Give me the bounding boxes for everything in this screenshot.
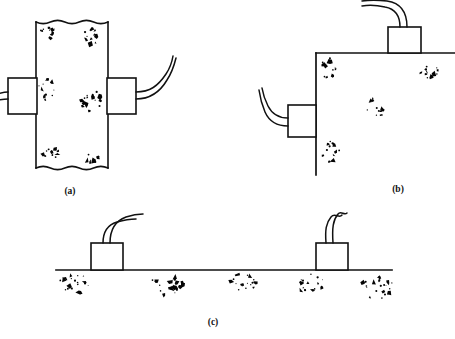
aggregate-particle [75, 290, 82, 294]
aggregate-cluster [40, 27, 55, 41]
aggregate-particle [338, 150, 340, 152]
aggregate-particle [57, 150, 59, 153]
aggregate-particle [235, 283, 236, 284]
cable-strand [0, 99, 8, 101]
aggregate-particle [329, 57, 331, 59]
transducer-right[interactable] [107, 56, 176, 114]
aggregate-particle [424, 68, 427, 71]
panel-label-c: (c) [208, 317, 219, 328]
aggregate-particle [383, 284, 385, 286]
aggregate-particle [67, 288, 68, 289]
aggregate-particle [43, 94, 46, 98]
aggregate-particle [94, 161, 96, 163]
aggregate-particle [162, 293, 165, 297]
aggregate-particle [54, 29, 55, 30]
aggregate-particle [95, 42, 97, 44]
aggregate-particle [436, 67, 437, 68]
aggregate-particle [43, 28, 45, 30]
aggregate-particle [376, 114, 377, 115]
aggregate-particle [317, 276, 319, 278]
aggregate-particle [419, 71, 422, 74]
transducer-top[interactable] [362, 0, 421, 53]
aggregate-cluster [322, 141, 340, 163]
aggregate-particle [95, 100, 96, 101]
aggregate-particle [53, 90, 54, 91]
aggregate-particle [327, 59, 333, 64]
cable-top [362, 0, 407, 27]
aggregate-particle [364, 282, 365, 283]
aggregate-particle [324, 76, 326, 78]
transducer-body[interactable] [316, 243, 348, 270]
aggregate-particle [53, 147, 57, 151]
figure-root: (a)(b)(c) [0, 0, 455, 339]
aggregate-particle [238, 289, 240, 291]
aggregate-particle [366, 285, 368, 287]
aggregate-particle [94, 34, 96, 36]
aggregate-particle [88, 41, 93, 47]
aggregate-particle [302, 287, 304, 289]
aggregate-particle [384, 293, 386, 295]
aggregate-particle [49, 29, 50, 30]
aggregate-particle [253, 281, 257, 284]
wall-top-break-edge [36, 20, 108, 23]
aggregate-particle [40, 29, 42, 31]
aggregate-particle [247, 275, 248, 276]
transducer-body[interactable] [107, 78, 136, 114]
cable-strand [333, 213, 347, 243]
panel-label-a: (a) [64, 186, 75, 197]
aggregate-particle [89, 161, 91, 164]
transducer-body[interactable] [91, 243, 123, 270]
transducer-side[interactable] [259, 88, 316, 137]
transducer-right[interactable] [316, 213, 348, 270]
cable-right [326, 213, 347, 243]
aggregate-particle [70, 273, 73, 277]
aggregate-particle [378, 110, 380, 112]
aggregate-particle [253, 279, 254, 280]
aggregate-particle [329, 141, 331, 143]
aggregate-particle [159, 285, 160, 286]
transducer-body[interactable] [288, 105, 316, 137]
aggregate-particle [381, 290, 385, 294]
aggregate-particle [154, 279, 158, 283]
cable-left [0, 92, 8, 101]
aggregate-particle [50, 150, 54, 154]
aggregate-cluster [299, 273, 323, 292]
aggregate-particle [86, 95, 87, 96]
transducer-body[interactable] [8, 78, 37, 114]
aggregate-particle [50, 27, 55, 32]
aggregate-cluster [419, 66, 438, 80]
aggregate-particle [77, 283, 79, 285]
aggregate-particle [77, 282, 79, 284]
aggregate-particle [322, 154, 325, 157]
aggregate-particle [82, 281, 87, 283]
cable-strand [136, 58, 176, 99]
aggregate-particle [333, 154, 336, 157]
panel-a [0, 20, 176, 169]
aggregate-particle [174, 292, 175, 293]
aggregate-particle [41, 86, 44, 91]
aggregate-particle [84, 97, 86, 99]
aggregate-particle [304, 289, 306, 291]
aggregate-particle [366, 287, 367, 288]
aggregate-particle [432, 71, 436, 77]
aggregate-particle [331, 142, 333, 144]
aggregate-cluster [59, 273, 88, 294]
aggregate-particle [98, 105, 100, 107]
transducer-left[interactable] [91, 214, 143, 270]
aggregate-particle [332, 69, 334, 71]
aggregate-particle [40, 152, 44, 156]
aggregate-particle [65, 289, 67, 291]
aggregate-particle [79, 293, 81, 295]
transducer-body[interactable] [388, 27, 421, 53]
aggregate-particle [323, 64, 328, 68]
aggregate-cluster [85, 154, 100, 164]
aggregate-particle [326, 149, 328, 151]
aggregate-particle [97, 94, 102, 100]
aggregate-particle [437, 69, 439, 72]
aggregate-particle [329, 145, 331, 147]
aggregate-particle [426, 71, 427, 72]
panel-label-b: (b) [392, 184, 404, 195]
transducer-left[interactable] [0, 78, 37, 114]
aggregate-particle [306, 281, 309, 284]
aggregate-cluster [84, 27, 98, 47]
